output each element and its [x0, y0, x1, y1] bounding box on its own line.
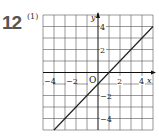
x-axis-label: x — [147, 76, 152, 85]
x-tick-label: −2 — [66, 77, 78, 86]
y-axis-label: y — [90, 13, 96, 22]
coordinate-graph: −4 −2 2 4 O x y 4 2 −2 −4 — [0, 0, 159, 139]
y-tick-label: −2 — [100, 92, 112, 101]
y-tick-label: 4 — [100, 23, 105, 32]
origin-label: O — [89, 75, 96, 85]
x-axis-arrow-icon — [151, 71, 156, 75]
y-tick-label: 2 — [100, 46, 105, 55]
x-tick-label: −4 — [44, 77, 56, 86]
x-tick-label: 2 — [117, 77, 122, 86]
y-tick-label: −4 — [100, 115, 112, 124]
x-tick-label: 4 — [139, 77, 144, 86]
axes — [43, 13, 155, 130]
